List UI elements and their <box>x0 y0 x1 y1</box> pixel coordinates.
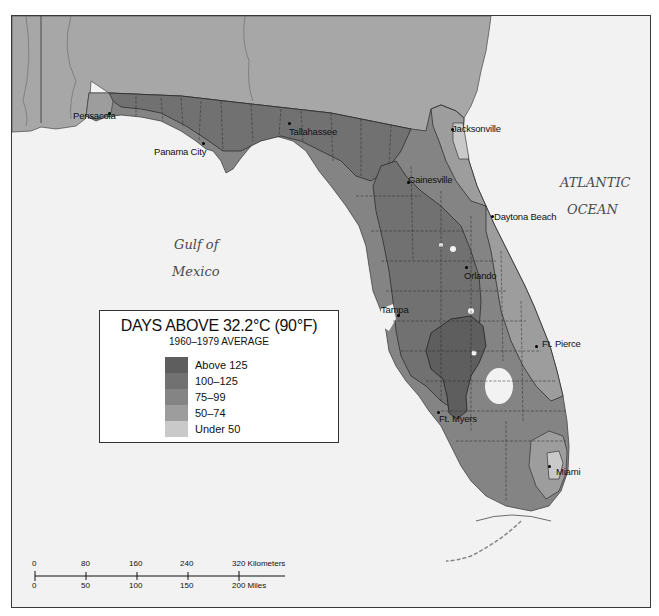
scale-mi-50: 50 <box>81 581 90 590</box>
legend-label-50-74: 50–74 <box>195 405 248 421</box>
legend-subtitle: 1960–1979 AVERAGE <box>100 336 338 347</box>
scale-km-80: 80 <box>81 559 90 568</box>
swatch-50-74 <box>165 405 188 421</box>
scale-km-0: 0 <box>32 559 36 568</box>
legend-label-above-125: Above 125 <box>195 357 248 373</box>
legend-swatches <box>165 357 188 437</box>
swatch-under-50 <box>165 421 188 437</box>
city-label-pensacola: Pensacola <box>73 110 116 121</box>
legend-title: DAYS ABOVE 32.2°C (90°F) <box>100 317 338 335</box>
legend-label-under-50: Under 50 <box>195 421 248 437</box>
city-label-ft-pierce: Ft. Pierce <box>542 338 581 349</box>
city-label-panama-city: Panama City <box>154 146 206 157</box>
scale-bar: 0 80 160 240 320 Kilometers 0 50 100 150… <box>32 559 292 593</box>
legend: DAYS ABOVE 32.2°C (90°F) 1960–1979 AVERA… <box>99 310 339 443</box>
lake-okeechobee <box>485 368 513 404</box>
city-label-gainesville: Gainesville <box>408 174 452 185</box>
scale-mi-150: 150 <box>180 581 193 590</box>
gulf-label-line1: Gulf of <box>174 237 219 252</box>
legend-labels: Above 125 100–125 75–99 50–74 Under 50 <box>195 357 248 437</box>
legend-label-75-99: 75–99 <box>195 389 248 405</box>
atlantic-label-line1: ATLANTIC <box>560 175 631 190</box>
city-label-tampa: Tampa <box>381 304 409 315</box>
scale-km-320: 320 Kilometers <box>232 559 285 568</box>
swatch-above-125 <box>165 357 188 373</box>
city-label-miami: Miami <box>556 466 580 477</box>
city-label-daytona-beach: Daytona Beach <box>494 211 556 222</box>
atlantic-label-line2: OCEAN <box>567 202 618 217</box>
city-label-ft-myers: Ft. Myers <box>439 413 477 424</box>
map-frame: Gulf of Mexico ATLANTIC OCEAN Pensacola … <box>11 15 651 608</box>
scale-mi-100: 100 <box>129 581 142 590</box>
scale-mi-200: 200 Miles <box>232 581 266 590</box>
gulf-label-line2: Mexico <box>172 264 220 279</box>
legend-label-100-125: 100–125 <box>195 373 248 389</box>
swatch-75-99 <box>165 389 188 405</box>
city-label-jacksonville: Jacksonville <box>452 123 501 134</box>
lake <box>450 246 456 252</box>
scale-km-160: 160 <box>129 559 142 568</box>
scale-mi-0: 0 <box>32 581 36 590</box>
swatch-100-125 <box>165 373 188 389</box>
scale-km-240: 240 <box>180 559 193 568</box>
city-label-tallahassee: Tallahassee <box>289 126 337 137</box>
city-label-orlando: Orlando <box>464 270 496 281</box>
